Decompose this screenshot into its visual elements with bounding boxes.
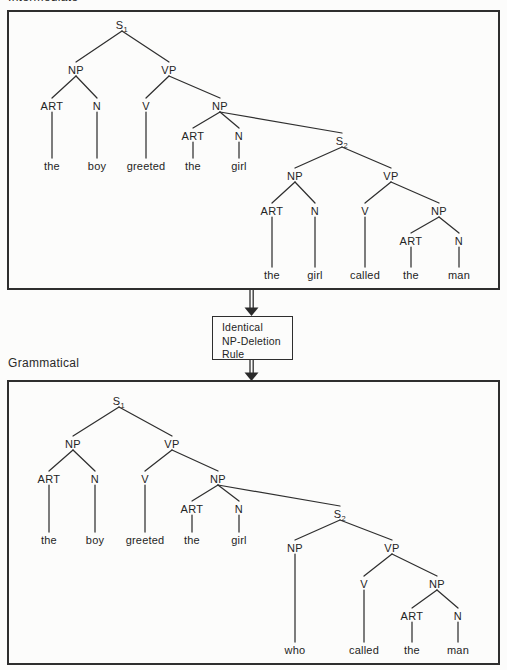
tree-edge <box>342 147 391 168</box>
tree-edge <box>146 76 169 98</box>
tree-node-label: N <box>235 503 243 515</box>
tree-edge <box>145 450 172 471</box>
tree-edge <box>439 217 459 233</box>
tree-word: the <box>41 534 57 546</box>
tree-edge <box>192 485 218 501</box>
tree-edge <box>392 554 437 576</box>
tree-node-label: S1 <box>113 395 125 410</box>
tree-node-label: NP <box>429 578 445 590</box>
grammatical-syntax-tree: S1NPVPARTNVNPARTNS2NPVPVNPARTNtheboygree… <box>9 382 498 663</box>
tree-node-label: N <box>455 235 463 247</box>
tree-word: who <box>284 644 306 656</box>
tree-node-label: V <box>360 578 368 590</box>
tree-edge <box>365 182 391 203</box>
tree-edge <box>169 76 220 98</box>
tree-edge <box>193 112 220 128</box>
tree-node-label: ART <box>181 130 204 142</box>
tree-edge <box>73 407 119 436</box>
down-double-arrow-icon <box>240 290 263 316</box>
tree-node-label: VP <box>161 64 176 76</box>
down-double-arrow-icon <box>240 359 263 381</box>
tree-edge <box>76 76 97 98</box>
tree-edge <box>437 590 458 608</box>
tree-word: called <box>349 644 379 656</box>
tree-node-label: NP <box>65 438 81 450</box>
tree-node-label: NP <box>210 473 226 485</box>
tree-node-label: N <box>454 610 462 622</box>
figure-canvas: Intermediate S1NPVPARTNVNPARTNS2NPVPARTN… <box>0 0 507 670</box>
tree-edge <box>52 76 76 98</box>
tree-node-label: ART <box>180 503 203 515</box>
tree-word: boy <box>88 160 107 172</box>
grammatical-tree-panel: S1NPVPARTNVNPARTNS2NPVPVNPARTNtheboygree… <box>7 380 500 665</box>
tree-node-label: S2 <box>334 508 346 523</box>
tree-node-label: ART <box>37 473 60 485</box>
tree-word: the <box>404 644 420 656</box>
tree-word: called <box>350 269 380 281</box>
tree-node-label: ART <box>260 205 283 217</box>
tree-edge <box>295 520 340 540</box>
tree-edge <box>412 590 437 608</box>
tree-edge <box>122 31 169 62</box>
tree-edge <box>295 147 342 168</box>
tree-word: man <box>448 269 470 281</box>
tree-node-label: ART <box>399 235 422 247</box>
tree-edge <box>295 182 315 203</box>
tree-edge <box>76 31 122 62</box>
tree-node-label: VP <box>383 170 398 182</box>
tree-node-label: V <box>142 100 150 112</box>
tree-edge <box>49 450 73 471</box>
tree-node-label: NP <box>431 205 447 217</box>
tree-node-label: V <box>361 205 369 217</box>
tree-word: the <box>403 269 419 281</box>
tree-word: greeted <box>126 534 165 546</box>
tree-node-label: NP <box>68 64 84 76</box>
tree-word: the <box>44 160 60 172</box>
tree-word: man <box>447 644 469 656</box>
tree-word: boy <box>86 534 105 546</box>
tree-word: the <box>264 269 280 281</box>
tree-word: greeted <box>127 160 166 172</box>
tree-node-label: VP <box>164 438 179 450</box>
tree-word: the <box>185 160 201 172</box>
tree-node-label: NP <box>212 100 228 112</box>
tree-node-label: S2 <box>336 135 348 150</box>
tree-edge <box>411 217 439 233</box>
tree-edge <box>172 450 218 471</box>
tree-node-label: NP <box>287 170 303 182</box>
rule-box: Identical NP-Deletion Rule <box>212 316 293 360</box>
tree-edge <box>391 182 439 203</box>
tree-node-label: ART <box>40 100 63 112</box>
tree-node-label: V <box>141 473 149 485</box>
tree-node-label: N <box>311 205 319 217</box>
tree-node-label: NP <box>287 542 303 554</box>
tree-edge <box>340 520 392 540</box>
tree-word: girl <box>307 269 322 281</box>
intermediate-label: Intermediate <box>8 0 78 4</box>
tree-edge <box>73 450 95 471</box>
intermediate-syntax-tree: S1NPVPARTNVNPARTNS2NPVPARTNVNPARTNtheboy… <box>9 12 498 288</box>
tree-edge <box>119 407 172 436</box>
tree-node-label: N <box>235 130 243 142</box>
tree-word: girl <box>231 160 246 172</box>
tree-word: the <box>184 534 200 546</box>
intermediate-tree-panel: S1NPVPARTNVNPARTNS2NPVPARTNVNPARTNtheboy… <box>7 10 500 290</box>
rule-box-line: NP-Deletion <box>222 335 292 349</box>
tree-word: girl <box>231 534 246 546</box>
tree-edge <box>364 554 392 576</box>
rule-box-line: Identical <box>222 321 292 335</box>
tree-node-label: N <box>93 100 101 112</box>
grammatical-label: Grammatical <box>8 356 79 370</box>
tree-node-label: ART <box>400 610 423 622</box>
tree-node-label: VP <box>384 542 399 554</box>
tree-edge <box>272 182 295 203</box>
tree-node-label: N <box>91 473 99 485</box>
